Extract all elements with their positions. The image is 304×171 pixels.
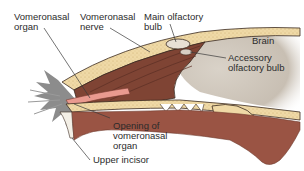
label-accessory-olfactory-bulb: Accessory olfactory bulb bbox=[228, 53, 285, 73]
main-olfactory-bulb bbox=[166, 39, 190, 49]
label-opening-of-vomeronasal-organ: Opening of vomeronasal organ bbox=[113, 121, 167, 151]
label-vomeronasal-organ: Vomeronasal organ bbox=[14, 12, 69, 32]
vomeronasal-diagram: Vomeronasal organ Vomeronasal nerve Main… bbox=[0, 0, 304, 171]
label-main-olfactory-bulb: Main olfactory bulb bbox=[144, 12, 203, 32]
label-brain: Brain bbox=[252, 36, 274, 46]
upper-incisor bbox=[60, 112, 74, 138]
label-upper-incisor: Upper incisor bbox=[93, 155, 149, 165]
label-vomeronasal-nerve: Vomeronasal nerve bbox=[80, 12, 135, 32]
